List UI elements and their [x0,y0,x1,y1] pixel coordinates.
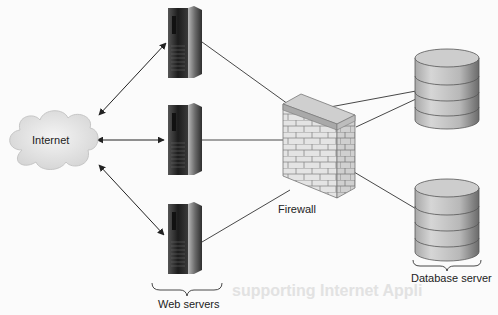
network-diagram [0,0,498,315]
web-servers-brace [152,283,222,296]
database-server-label: Database server [411,272,492,284]
web-to-firewall-lines [202,42,290,242]
brick-wall-icon [283,94,355,198]
internet-label: Internet [32,134,69,146]
database-cylinder-1 [415,49,479,129]
web-servers-label: Web servers [158,298,220,310]
arrow-internet-server-1 [99,43,166,115]
internet-to-web-arrows [97,43,166,235]
web-server-2 [168,103,202,175]
database-brace [413,260,481,271]
firewall-label: Firewall [278,203,316,215]
arrow-internet-server-3 [99,165,164,235]
web-server-3 [168,202,202,274]
web-server-1 [168,6,202,78]
database-cylinder-2 [415,179,479,261]
